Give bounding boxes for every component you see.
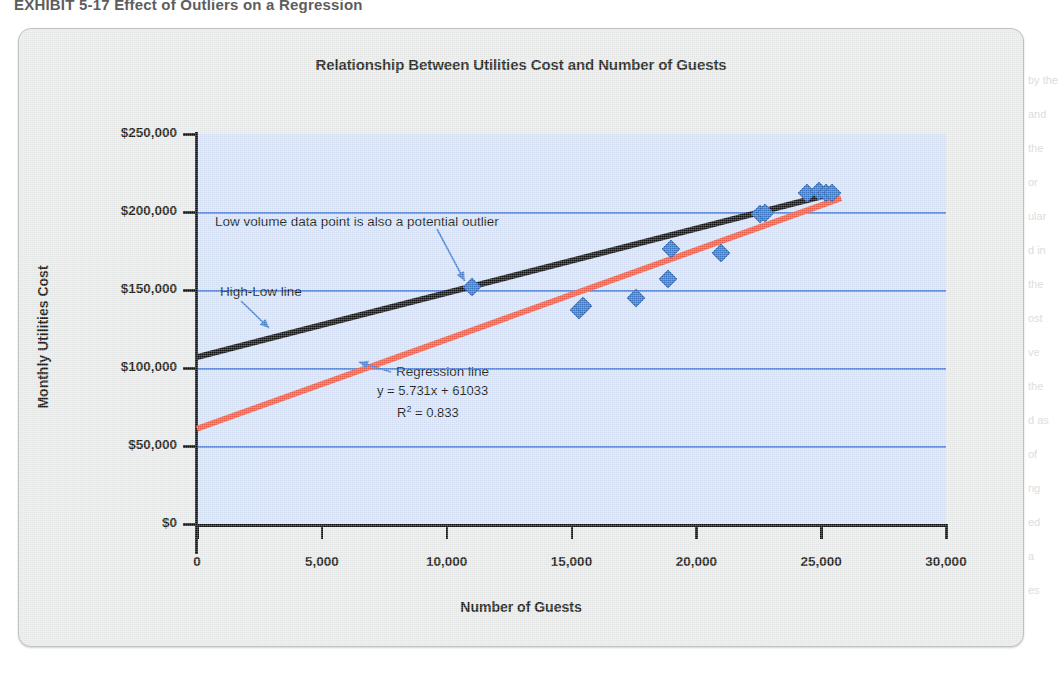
bleed-text: the xyxy=(1028,274,1043,295)
bleed-text: by the xyxy=(1028,70,1058,91)
bleed-text: ular xyxy=(1028,206,1046,227)
bleed-text: the xyxy=(1028,376,1043,397)
arrow-to-regression-line xyxy=(359,361,391,372)
bleed-text: ost xyxy=(1028,308,1043,329)
bleed-text: of xyxy=(1028,444,1037,465)
annotation-regression-equation: y = 5.731x + 61033 xyxy=(377,382,488,399)
bleed-text: es xyxy=(1028,580,1040,601)
exhibit-caption: EXHIBIT 5-17 Effect of Outliers on a Reg… xyxy=(14,0,363,13)
bleed-text: a xyxy=(1028,546,1034,567)
arrow-to-high-low-line xyxy=(241,301,269,328)
annotation-outlier-note: Low volume data point is also a potentia… xyxy=(215,214,499,229)
bleed-text: or xyxy=(1028,172,1038,193)
annotation-high-low-note: High-Low line xyxy=(220,284,302,299)
annotation-arrows xyxy=(19,29,1023,646)
bleed-text: d as xyxy=(1028,410,1049,431)
bleed-text: ed xyxy=(1028,512,1040,533)
exhibit-card: Relationship Between Utilities Cost and … xyxy=(18,28,1024,647)
annotation-regression-r2: R2 = 0.833 xyxy=(397,401,459,421)
bleed-text: ng xyxy=(1028,478,1040,499)
annotation-regression-note: Regression line xyxy=(396,364,489,379)
bleed-text: and xyxy=(1028,104,1046,125)
bleed-text: d in xyxy=(1028,240,1046,261)
bleed-text: ve xyxy=(1028,342,1040,363)
chart-plot-wrapper: Monthly Utilities Cost Number of Guests … xyxy=(19,29,1023,646)
bleed-text: the xyxy=(1028,138,1043,159)
arrow-to-outlier xyxy=(437,229,465,281)
